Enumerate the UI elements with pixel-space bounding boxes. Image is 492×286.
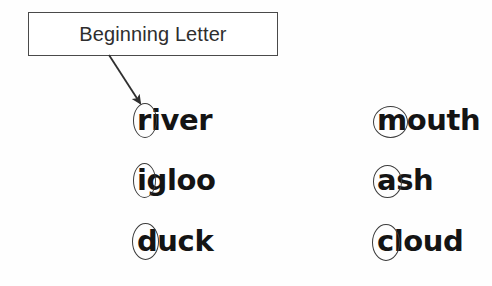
word-text: igloo xyxy=(137,166,216,195)
word-text: cloud xyxy=(377,227,463,256)
word-text: duck xyxy=(137,227,213,256)
word-text: ash xyxy=(377,166,433,195)
word-list: river igloo duck mouth ash cloud xyxy=(0,0,492,286)
word-item[interactable]: duck xyxy=(137,227,213,256)
worksheet-canvas: Beginning Letter river igloo duck mouth xyxy=(0,0,492,286)
word-item[interactable]: mouth xyxy=(377,106,480,135)
word-item[interactable]: river xyxy=(137,106,212,135)
word-text: mouth xyxy=(377,106,480,135)
word-text: river xyxy=(137,106,212,135)
word-item[interactable]: ash xyxy=(377,166,433,195)
word-item[interactable]: igloo xyxy=(137,166,216,195)
word-item[interactable]: cloud xyxy=(377,227,463,256)
